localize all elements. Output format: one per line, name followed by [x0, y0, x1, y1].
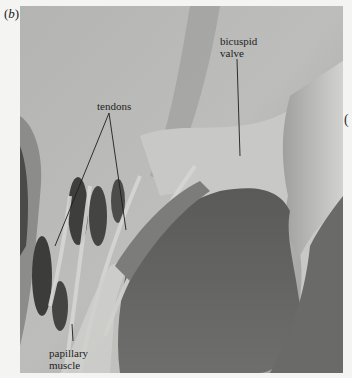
- bicuspid-valve-label: bicuspid valve: [220, 35, 257, 59]
- heart-valve-micrograph: bicuspid valve tendons papillary muscle: [20, 6, 343, 373]
- micrograph-shapes: [20, 6, 343, 373]
- tendons-label: tendons: [97, 100, 131, 112]
- adjacent-panel-label-fragment: (: [344, 112, 349, 128]
- papillary-muscle-label: papillary muscle: [49, 347, 88, 371]
- panel-label: (b): [4, 6, 19, 22]
